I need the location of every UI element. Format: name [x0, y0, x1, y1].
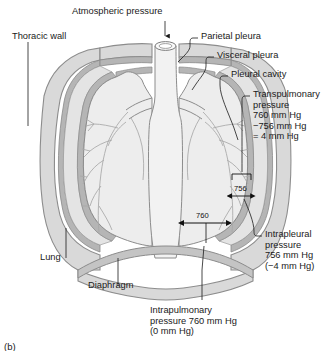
label-lung: Lung — [40, 252, 61, 263]
label-intrapleural-pressure: Intrapleural pressure 756 mm Hg (−4 mm H… — [265, 229, 314, 271]
figure-container: Atmospheric pressure Thoracic wall Parie… — [0, 0, 331, 351]
label-parietal-pleura: Parietal pleura — [201, 31, 261, 42]
label-atmospheric-pressure: Atmospheric pressure — [72, 6, 162, 17]
thorax-diagram — [0, 0, 331, 351]
figure-caption: (b) — [4, 341, 16, 351]
measurement-value-intrapleural: 756 — [234, 184, 247, 193]
label-intrapulmonary-pressure: Intrapulmonary pressure 760 mm Hg (0 mm … — [150, 305, 237, 337]
label-diaphragm: Diaphragm — [88, 280, 133, 291]
measurement-value-intrapulmonary: 760 — [196, 211, 209, 220]
label-pleural-cavity: Pleural cavity — [231, 69, 286, 80]
label-visceral-pleura: Visceral pleura — [217, 50, 278, 61]
diaphragm — [78, 246, 253, 278]
label-thoracic-wall: Thoracic wall — [12, 31, 66, 42]
label-transpulmonary-pressure: Transpulmonary pressure 760 mm Hg −756 m… — [253, 89, 320, 142]
